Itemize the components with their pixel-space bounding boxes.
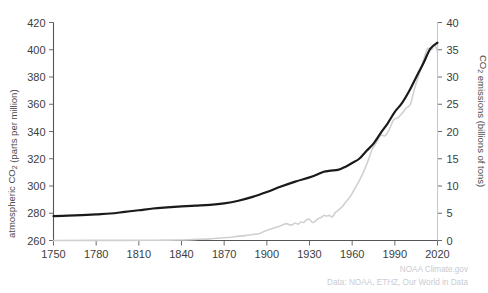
figure-background	[0, 0, 488, 293]
left-tick-label: 280	[27, 207, 45, 219]
co2-chart-figure: 260280300320340360380400420 051015202530…	[0, 0, 488, 293]
left-tick-label: 400	[27, 44, 45, 56]
left-tick-label: 340	[27, 126, 45, 138]
right-tick-label: 30	[447, 71, 459, 83]
right-tick-label: 35	[447, 44, 459, 56]
x-tick-label: 1780	[84, 248, 108, 260]
left-tick-label: 320	[27, 153, 45, 165]
left-tick-label: 300	[27, 180, 45, 192]
credit-data: Data: NOAA, ETHZ, Our World in Data	[327, 278, 468, 287]
left-tick-label: 420	[27, 17, 45, 29]
x-tick-label: 1870	[212, 248, 236, 260]
right-axis-title: CO2 emissions (billions of tons)	[476, 55, 488, 187]
left-tick-label: 380	[27, 71, 45, 83]
right-tick-label: 40	[447, 17, 459, 29]
x-tick-label: 1900	[255, 248, 279, 260]
right-tick-label: 10	[447, 180, 459, 192]
x-tick-label: 1990	[383, 248, 407, 260]
left-tick-label: 260	[27, 235, 45, 247]
right-tick-label: 25	[447, 98, 459, 110]
left-tick-label: 360	[27, 98, 45, 110]
x-tick-label: 1750	[41, 248, 65, 260]
x-tick-label: 1930	[297, 248, 321, 260]
x-tick-label: 2020	[425, 248, 449, 260]
credit-source: NOAA Climate.gov	[400, 265, 469, 274]
x-tick-label: 1840	[169, 248, 193, 260]
right-tick-label: 0	[447, 235, 453, 247]
x-tick-label: 1960	[340, 248, 364, 260]
right-tick-label: 20	[447, 126, 459, 138]
chart-canvas: 260280300320340360380400420 051015202530…	[0, 0, 488, 293]
right-tick-label: 5	[447, 207, 453, 219]
x-tick-label: 1810	[127, 248, 151, 260]
right-tick-label: 15	[447, 153, 459, 165]
